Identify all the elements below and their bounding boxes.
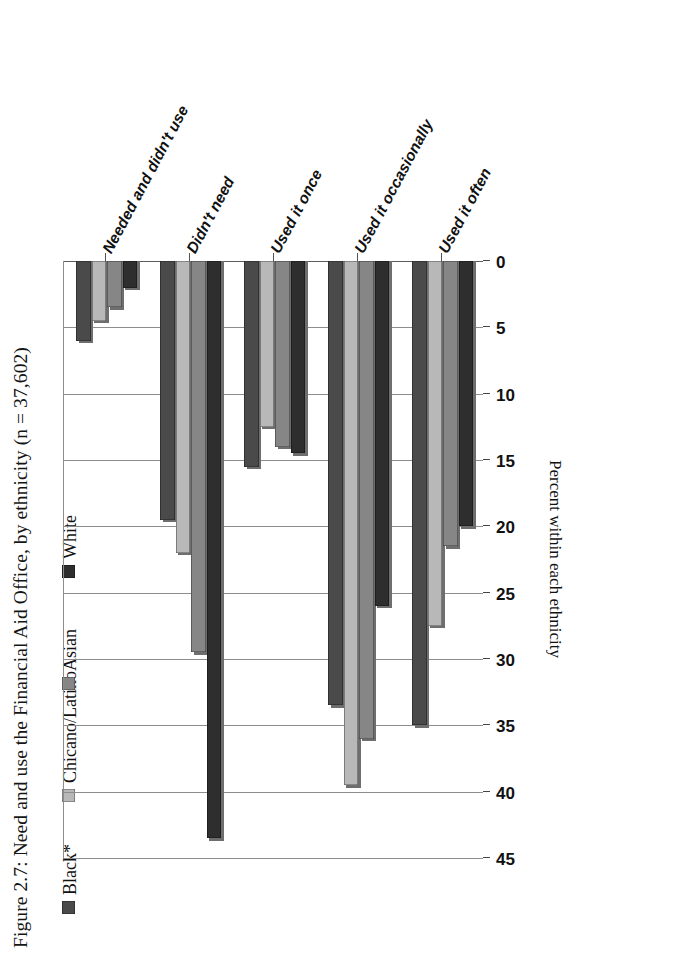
bar: [107, 261, 122, 307]
bar-group: [147, 261, 231, 858]
bar: [76, 261, 91, 341]
bar-group: [231, 261, 315, 858]
bar: [191, 261, 206, 652]
axis-tick: [483, 791, 490, 792]
bar: [412, 261, 427, 725]
bar: [428, 261, 443, 626]
axis-tick-label: 0: [496, 253, 505, 273]
category-tick: [357, 253, 358, 261]
axis-tick-label: 5: [496, 319, 505, 339]
category-tick: [105, 253, 106, 261]
bar: [459, 261, 474, 526]
axis-tick: [483, 393, 490, 394]
category-label: Didn't need: [183, 174, 238, 256]
axis-tick-label: 20: [496, 518, 515, 538]
bar: [291, 261, 306, 453]
axis-tick: [483, 525, 490, 526]
category-label: Used it occasionally: [351, 116, 437, 256]
axis-title-percent: Percent within each ethnicity: [545, 450, 565, 670]
figure-caption: Figure 2.7: Need and use the Financial A…: [10, 347, 32, 948]
bar: [359, 261, 374, 739]
axis-tick-label: 25: [496, 585, 515, 605]
category-tick: [273, 253, 274, 261]
bar: [260, 261, 275, 427]
axis-tick: [483, 658, 490, 659]
axis-tick: [483, 592, 490, 593]
axis-tick-label: 40: [496, 784, 515, 804]
bar-group: [63, 261, 147, 858]
figure-stage: Figure 2.7: Need and use the Financial A…: [0, 0, 686, 954]
bar: [160, 261, 175, 520]
category-label: Needed and didn't use: [99, 103, 192, 257]
axis-tick: [483, 857, 490, 858]
bar-group: [399, 261, 483, 858]
axis-tick-label: 10: [496, 386, 515, 406]
bar: [123, 261, 138, 288]
bar: [207, 261, 222, 838]
axis-tick: [483, 260, 490, 261]
bar: [375, 261, 390, 606]
category-tick: [189, 253, 190, 261]
bar: [328, 261, 343, 705]
bar: [92, 261, 107, 321]
bar: [244, 261, 259, 467]
category-label: Used it once: [267, 167, 326, 257]
bar: [275, 261, 290, 447]
legend-swatch: [62, 901, 75, 914]
bar: [176, 261, 191, 553]
gridline-45: [63, 858, 483, 859]
axis-tick: [483, 326, 490, 327]
axis-tick: [483, 459, 490, 460]
chart-plot-area: [63, 261, 483, 858]
axis-tick-label: 30: [496, 651, 515, 671]
category-label: Used it often: [435, 165, 495, 256]
axis-tick-label: 35: [496, 717, 515, 737]
bar: [344, 261, 359, 785]
axis-tick-label: 45: [496, 850, 515, 870]
axis-tick-label: 15: [496, 452, 515, 472]
category-tick: [441, 253, 442, 261]
axis-tick: [483, 724, 490, 725]
bar: [443, 261, 458, 546]
bar-group: [315, 261, 399, 858]
